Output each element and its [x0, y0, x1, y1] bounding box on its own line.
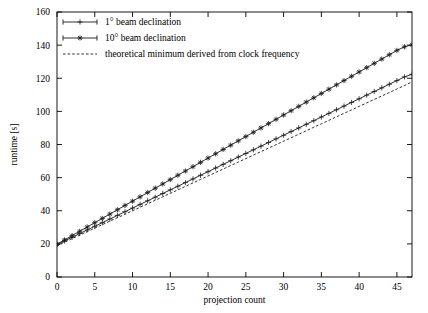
- x-tick-label: 40: [354, 282, 364, 292]
- y-tick-label: 140: [36, 41, 51, 51]
- legend-label: 1° beam declination: [105, 17, 181, 27]
- x-axis-label: projection count: [204, 295, 266, 305]
- x-tick-label: 0: [55, 282, 60, 292]
- x-tick-label: 10: [128, 282, 138, 292]
- y-axis-label: runtime [s]: [9, 124, 19, 166]
- legend-label: 10° beam declination: [105, 33, 186, 43]
- x-tick-label: 15: [166, 282, 176, 292]
- chart-figure: 020406080100120140160 051015202530354045…: [0, 0, 428, 313]
- y-tick-label: 20: [41, 239, 51, 249]
- y-tick-label: 80: [41, 140, 51, 150]
- y-tick-label: 120: [36, 74, 51, 84]
- y-tick-label: 160: [36, 7, 51, 17]
- x-tick-label: 35: [317, 282, 327, 292]
- y-tick-label: 40: [41, 206, 51, 216]
- runtime-vs-projection-count-chart: 020406080100120140160 051015202530354045…: [0, 0, 428, 313]
- x-tick-label: 30: [279, 282, 289, 292]
- x-tick-label: 20: [203, 282, 213, 292]
- x-tick-label: 5: [92, 282, 97, 292]
- x-tick-label: 25: [241, 282, 251, 292]
- chart-background: [0, 0, 428, 313]
- legend-label: theoretical minimum derived from clock f…: [105, 49, 300, 59]
- y-tick-label: 60: [41, 173, 51, 183]
- y-tick-label: 0: [45, 272, 50, 282]
- x-tick-label: 45: [392, 282, 402, 292]
- y-tick-label: 100: [36, 107, 51, 117]
